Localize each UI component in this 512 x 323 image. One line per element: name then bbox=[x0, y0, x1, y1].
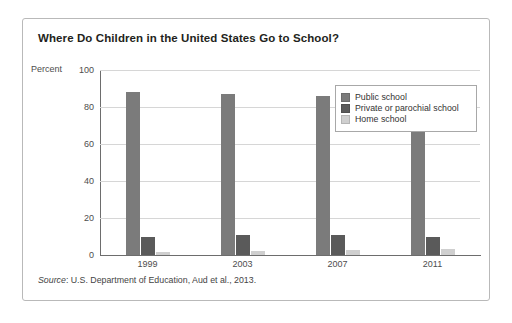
bar-1999-series-2 bbox=[156, 252, 170, 255]
y-tick-label-20: 20 bbox=[84, 213, 94, 223]
source-label: Source bbox=[38, 275, 66, 285]
y-axis-ticks: 020406080100 bbox=[28, 70, 94, 255]
y-tick-label-80: 80 bbox=[84, 102, 94, 112]
bar-2007-series-0 bbox=[316, 96, 330, 255]
bar-1999-series-1 bbox=[141, 237, 155, 256]
legend-label-1: Private or parochial school bbox=[355, 104, 459, 113]
y-tick-label-60: 60 bbox=[84, 139, 94, 149]
y-tick-label-100: 100 bbox=[79, 65, 94, 75]
bar-1999-series-0 bbox=[126, 92, 140, 255]
y-tick-label-0: 0 bbox=[89, 250, 94, 260]
x-axis-label-2003: 2003 bbox=[195, 259, 290, 269]
bar-group-1999: 1999 bbox=[100, 70, 195, 255]
legend-item-0[interactable]: Public school bbox=[341, 93, 470, 102]
bar-2011-series-1 bbox=[426, 237, 440, 256]
legend-item-1[interactable]: Private or parochial school bbox=[341, 104, 470, 113]
y-tick-label-40: 40 bbox=[84, 176, 94, 186]
bar-2007-series-1 bbox=[331, 235, 345, 255]
x-axis-label-1999: 1999 bbox=[100, 259, 195, 269]
page-title: Where Do Children in the United States G… bbox=[38, 32, 339, 44]
legend-swatch-icon-0 bbox=[341, 93, 350, 102]
x-axis-line bbox=[100, 255, 481, 256]
bar-2003-series-0 bbox=[221, 94, 235, 255]
bar-2003-series-1 bbox=[236, 235, 250, 255]
legend-label-0: Public school bbox=[355, 93, 407, 102]
legend-item-2[interactable]: Home school bbox=[341, 115, 470, 124]
bar-group-2003: 2003 bbox=[195, 70, 290, 255]
bar-2003-series-2 bbox=[251, 251, 265, 255]
legend-swatch-icon-2 bbox=[341, 115, 350, 124]
legend-label-2: Home school bbox=[355, 115, 406, 124]
source-text: : U.S. Department of Education, Aud et a… bbox=[66, 275, 256, 285]
x-axis-label-2007: 2007 bbox=[290, 259, 385, 269]
x-axis-label-2011: 2011 bbox=[385, 259, 480, 269]
legend-swatch-icon-1 bbox=[341, 104, 350, 113]
chart-screenshot: Where Do Children in the United States G… bbox=[0, 0, 512, 323]
legend: Public schoolPrivate or parochial school… bbox=[335, 85, 477, 132]
bar-2007-series-2 bbox=[346, 250, 360, 255]
bar-2011-series-2 bbox=[441, 249, 455, 255]
source-note: Source: U.S. Department of Education, Au… bbox=[38, 275, 256, 285]
